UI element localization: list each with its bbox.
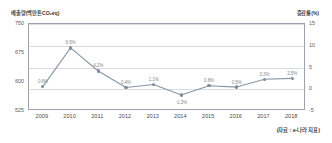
right-axis-tick: -5 (309, 107, 331, 113)
x-axis-tick: 2015 (193, 113, 223, 119)
chart-container: 배출량(백만톤CO₂eq) 증감률(%) 0.6%9.5%4.2%0.4%1.1… (0, 0, 332, 143)
x-axis-tick: 2011 (82, 113, 112, 119)
x-axis-tick: 2017 (248, 113, 278, 119)
x-axis-tick: 2018 (276, 113, 306, 119)
x-axis-tick: 2012 (110, 113, 140, 119)
left-axis-tick: 750 (4, 20, 24, 26)
source-note: (자료 : e-나라 지표) (277, 126, 320, 134)
x-axis-tick: 2016 (221, 113, 251, 119)
right-axis-tick: 0 (309, 85, 331, 91)
left-axis-tick: 525 (4, 107, 24, 113)
right-axis-tick: 5 (309, 64, 331, 70)
left-axis-unit-label: 배출량(백만톤CO₂eq) (11, 9, 59, 16)
x-axis-tick: 2013 (138, 113, 168, 119)
right-axis-tick: 10 (309, 42, 331, 48)
left-axis-tick: 675 (4, 49, 24, 55)
left-axis-tick: 600 (4, 78, 24, 84)
series-line (29, 24, 306, 111)
right-axis-unit-label: 증감률(%) (297, 9, 319, 16)
x-axis-tick: 2014 (165, 113, 195, 119)
x-axis-tick: 2010 (55, 113, 85, 119)
plot-area: 0.6%9.5%4.2%0.4%1.1%-1.3%0.8%0.5%2.3%2.5… (28, 23, 305, 110)
x-axis-tick: 2009 (27, 113, 57, 119)
right-axis-tick: 15 (309, 20, 331, 26)
